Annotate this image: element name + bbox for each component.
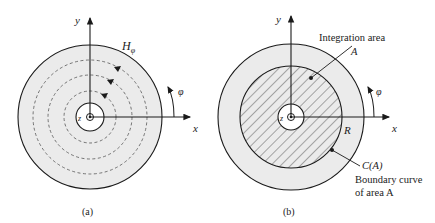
diagram-canvas: y x z φ Hφ (a) y x z φ R Integration are…: [0, 0, 435, 223]
phi-arc-icon: [168, 87, 174, 117]
area-title: Integration area: [319, 32, 386, 43]
curve-label: C(A): [362, 160, 383, 172]
phi-label-b: φ: [376, 86, 382, 97]
field-label-h: Hφ: [121, 39, 136, 55]
x-axis-label-b: x: [391, 122, 397, 134]
figure-a: y x z φ Hφ (a): [18, 14, 198, 218]
radius-label: R: [343, 124, 351, 136]
area-symbol: A: [350, 46, 358, 57]
area-leader-dot: [309, 76, 313, 80]
curve-leader-dot: [330, 148, 334, 152]
curve-desc-line-1: Boundary curve: [355, 174, 423, 185]
x-axis-label-a: x: [192, 122, 198, 134]
y-axis-label-a: y: [74, 14, 80, 26]
caption-b: (b): [283, 206, 295, 218]
phi-arc-icon: [368, 87, 374, 117]
figure-b: y x z φ R Integration area A C(A) Bounda…: [218, 13, 423, 218]
caption-a: (a): [82, 206, 93, 218]
phi-label-a: φ: [178, 86, 184, 97]
y-axis-label-b: y: [275, 13, 281, 25]
curve-desc-line-2: of area A: [355, 187, 394, 198]
